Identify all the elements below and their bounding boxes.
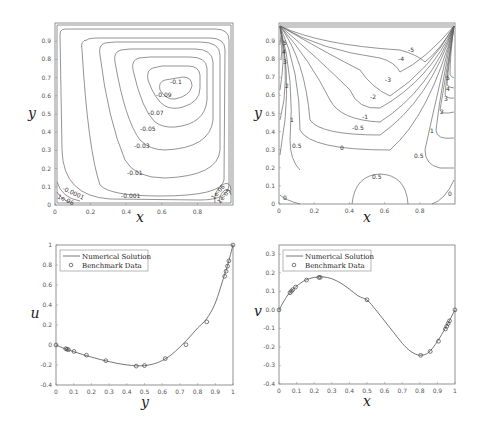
x-tick-label: 0.6 bbox=[380, 207, 390, 214]
y-tick-label: 0.5 bbox=[265, 110, 275, 117]
stream-contour-labels: -0.1 -0.09 -0.07 -0.05 -0.03 -0.01 -0.00… bbox=[57, 78, 232, 206]
x-axis-label: y bbox=[140, 394, 150, 410]
y-tick-label: 0.3 bbox=[265, 146, 275, 153]
contour-label: -0.5 bbox=[352, 124, 364, 131]
y-tick-label: 0.3 bbox=[265, 250, 275, 257]
y-tick-label: 0.0 bbox=[265, 306, 275, 313]
y-axis-label: v bbox=[254, 303, 262, 319]
contour-label: 2 bbox=[285, 82, 289, 89]
x-tick-label: 0.3 bbox=[327, 387, 337, 394]
contour-label: 2 bbox=[440, 108, 444, 115]
y-tick-labels: -0.4-0.200.20.40.60.81 bbox=[40, 241, 58, 388]
y-tick-label: 0.8 bbox=[41, 55, 51, 62]
contour-label: 0 bbox=[448, 190, 452, 197]
contour-label: -0.01 bbox=[127, 169, 143, 176]
y-tick-label: 0.2 bbox=[265, 164, 275, 171]
y-tick-labels: -0.4-0.3-0.2-0.10.00.10.20.3 bbox=[263, 250, 281, 387]
y-tick-label: 0.8 bbox=[265, 55, 275, 62]
contour-label: 0 bbox=[340, 144, 344, 151]
x-tick-label: 0.2 bbox=[87, 388, 97, 395]
benchmark-point bbox=[205, 320, 209, 324]
x-tick-label: 0.8 bbox=[193, 388, 203, 395]
y-tick-label: 0.2 bbox=[42, 321, 52, 328]
contour-label: -0.07 bbox=[148, 109, 164, 116]
contour-label: 4 bbox=[446, 85, 450, 92]
contour-label: 1 bbox=[290, 116, 294, 123]
x-tick-label: 0 bbox=[54, 388, 58, 395]
y-tick-label: 0.7 bbox=[265, 73, 275, 80]
contour-label: 0.5 bbox=[372, 173, 382, 180]
x-tick-label: 0.4 bbox=[122, 388, 132, 395]
x-tick-label: 0.9 bbox=[211, 388, 221, 395]
x-tick-label: 0.7 bbox=[175, 388, 185, 395]
legend: Numerical Solution Benchmark Data bbox=[283, 250, 375, 271]
y-axis-label: y bbox=[253, 105, 263, 121]
y-tick-label: 0.4 bbox=[42, 301, 52, 308]
x-tick-label: 0.8 bbox=[193, 208, 203, 215]
legend-numerical-label: Numerical Solution bbox=[82, 253, 152, 261]
y-tick-label: 0.3 bbox=[41, 146, 51, 153]
y-tick-label: 0.1 bbox=[265, 182, 275, 189]
benchmark-markers bbox=[277, 275, 457, 357]
contour-label: 3 bbox=[444, 95, 448, 102]
x-tick-label: 1 bbox=[231, 388, 235, 395]
y-tick-label: -0.2 bbox=[263, 343, 275, 350]
contour-label: -0.001 bbox=[121, 192, 141, 199]
y-tick-label: 0 bbox=[47, 201, 51, 208]
y-tick-label: 0.6 bbox=[42, 281, 52, 288]
y-tick-label: 0.9 bbox=[41, 37, 51, 44]
contour-label: -0.09 bbox=[156, 91, 172, 98]
y-tick-label: -0.2 bbox=[40, 361, 52, 368]
x-tick-label: 0.6 bbox=[380, 387, 390, 394]
y-tick-label: -0.1 bbox=[263, 324, 275, 331]
x-tick-label: 0.4 bbox=[121, 208, 131, 215]
contour-label: -0.03 bbox=[134, 142, 150, 149]
y-tick-label: -0.4 bbox=[40, 381, 52, 388]
contour-label: 4 bbox=[282, 48, 286, 55]
y-tick-label: -0.3 bbox=[263, 361, 275, 368]
x-axis-label: x bbox=[363, 393, 371, 409]
x-tick-label: 0.2 bbox=[86, 208, 96, 215]
vorticity-contour-plot: 00.10.20.30.40.50.60.70.80.9 00.20.40.60… bbox=[253, 23, 455, 225]
y-axis-label: y bbox=[27, 105, 37, 121]
numerical-solution-line bbox=[279, 277, 455, 356]
x-tick-label: 0.9 bbox=[433, 387, 443, 394]
contour-label: 1 bbox=[430, 127, 434, 134]
x-tick-label: 0.2 bbox=[309, 207, 319, 214]
y-tick-label: 0 bbox=[271, 200, 275, 207]
x-tick-label: 0 bbox=[277, 387, 281, 394]
x-axis-label: x bbox=[363, 209, 371, 225]
y-tick-label: 0.4 bbox=[41, 128, 51, 135]
x-tick-label: 0.4 bbox=[345, 207, 355, 214]
y-tick-label: 0.1 bbox=[265, 287, 275, 294]
y-tick-label: 0.6 bbox=[265, 91, 275, 98]
benchmark-point bbox=[184, 343, 188, 347]
x-tick-label: 0.2 bbox=[309, 387, 319, 394]
y-tick-label: 0.9 bbox=[265, 37, 275, 44]
vorticity-contour-labels: 5 4 3 2 1 0.5 0 -0.5 -1 -2 -3 -4 -5 5 4 … bbox=[282, 39, 452, 201]
x-tick-label: 0.4 bbox=[345, 387, 355, 394]
x-tick-label: 0.7 bbox=[397, 387, 407, 394]
y-tick-label: 0.5 bbox=[41, 110, 51, 117]
contour-label: -5 bbox=[408, 46, 414, 53]
y-tick-label: 0.7 bbox=[41, 74, 51, 81]
v-velocity-profile-plot: -0.4-0.3-0.2-0.10.00.10.20.3 00.10.20.30… bbox=[254, 245, 457, 409]
contour-label: 0.5 bbox=[292, 142, 302, 149]
contour-label: 5 bbox=[283, 39, 287, 46]
x-tick-label: 0.1 bbox=[292, 387, 302, 394]
contour-label: -2 bbox=[370, 93, 376, 100]
stream-contours bbox=[57, 25, 231, 203]
figure-canvas: 00.10.20.30.40.50.60.70.80.9 00.20.40.60… bbox=[0, 0, 480, 424]
x-tick-label: 0 bbox=[277, 207, 281, 214]
x-tick-label: 0.6 bbox=[157, 208, 167, 215]
contour-label: -1 bbox=[362, 113, 368, 120]
x-axis-label: x bbox=[136, 209, 144, 225]
contour-label: 5 bbox=[446, 74, 450, 81]
y-tick-label: 0.2 bbox=[265, 269, 275, 276]
contour-label: -0.05 bbox=[140, 125, 156, 132]
y-tick-label: 1 bbox=[48, 241, 52, 248]
x-tick-label: 0.8 bbox=[415, 207, 425, 214]
contour-label: -3 bbox=[385, 76, 391, 83]
contour-label: 0.5 bbox=[414, 152, 424, 159]
y-tick-label: 0.4 bbox=[265, 128, 275, 135]
